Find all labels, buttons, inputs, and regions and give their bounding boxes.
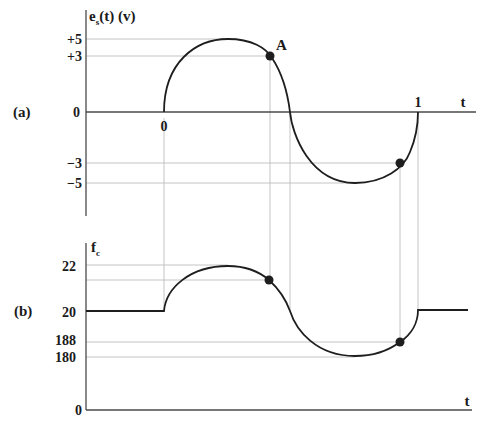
panel-a-label: (a) (13, 104, 31, 121)
tick-minus3: −3 (67, 156, 82, 171)
frequency-curve (86, 266, 468, 356)
lower-freq-marker (396, 338, 405, 347)
tick-zero-b: 0 (75, 403, 82, 418)
x-axis-label-b: t (465, 393, 470, 409)
tick-plus3: +3 (67, 49, 82, 64)
point-a-label: A (276, 37, 287, 53)
tick-188: 188 (55, 333, 76, 348)
fm-modulation-figure: es(t) (v) +5 +3 0 −3 −5 (a) 0 1 t A fc 2… (0, 0, 482, 427)
y-axis-label-b: fc (91, 239, 100, 258)
tick-20: 20 (62, 305, 76, 320)
x-tick-1: 1 (415, 95, 422, 110)
signal-curve (164, 39, 418, 183)
tick-zero-a: 0 (73, 105, 80, 120)
tick-180: 180 (55, 350, 76, 365)
panel-a: es(t) (v) +5 +3 0 −3 −5 (a) 0 1 t A (13, 8, 476, 342)
x-tick-0: 0 (161, 119, 168, 134)
tick-plus5: +5 (67, 32, 82, 47)
panel-b: fc 22 20 188 180 0 (b) t (14, 239, 472, 418)
point-a-marker (266, 52, 275, 61)
panel-b-label: (b) (14, 303, 32, 320)
upper-freq-marker (265, 276, 274, 285)
tick-22: 22 (62, 259, 76, 274)
y-axis-label-a: es(t) (v) (89, 8, 135, 27)
point-b-marker (396, 159, 405, 168)
tick-minus5: −5 (67, 176, 82, 191)
x-axis-label-a: t (461, 94, 466, 110)
